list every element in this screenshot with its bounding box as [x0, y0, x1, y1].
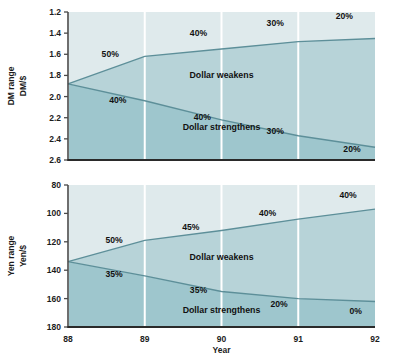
pct-lower-2-dm-chart: 30% — [267, 126, 285, 136]
x-tick-label-92: 92 — [370, 334, 380, 344]
y-tick-label-140: 140 — [47, 265, 61, 275]
pct-upper-1-dm-chart: 40% — [190, 28, 208, 38]
pct-lower-2-yen-chart: 20% — [270, 299, 288, 309]
pct-lower-3-yen-chart: 0% — [350, 306, 363, 316]
pct-upper-0-dm-chart: 50% — [102, 49, 120, 59]
pct-upper-3-dm-chart: 20% — [336, 11, 354, 21]
pct-lower-0-yen-chart: 35% — [105, 269, 123, 279]
pct-lower-1-yen-chart: 35% — [190, 285, 208, 295]
pct-lower-1-dm-chart: 40% — [194, 112, 212, 122]
x-tick-label-89: 89 — [140, 334, 150, 344]
region-label-strengthens-dm-chart: Dollar strengthens — [183, 122, 261, 132]
y-tick-label-2.0: 2.0 — [49, 92, 61, 102]
region-label-strengthens-yen-chart: Dollar strengthens — [183, 305, 261, 315]
y-axis-units-dm-chart: DM/$ — [18, 76, 28, 97]
y-tick-label-1.6: 1.6 — [49, 49, 61, 59]
x-tick-label-91: 91 — [294, 334, 304, 344]
x-tick-label-88: 88 — [63, 334, 73, 344]
y-axis-title-yen-chart: Yen range — [6, 235, 16, 276]
pct-upper-0-yen-chart: 50% — [105, 235, 123, 245]
region-label-weakens-yen-chart: Dollar weakens — [189, 252, 253, 262]
pct-upper-2-dm-chart: 30% — [267, 18, 285, 28]
y-tick-label-180: 180 — [47, 322, 61, 332]
y-tick-label-80: 80 — [52, 180, 62, 190]
pct-upper-2-yen-chart: 40% — [259, 208, 277, 218]
panel-yen-chart: 80100120140160180Yen rangeYen/$Dollar we… — [6, 180, 375, 332]
x-axis-group: 8889909192Year — [63, 334, 380, 355]
y-tick-label-100: 100 — [47, 208, 61, 218]
region-label-weakens-dm-chart: Dollar weakens — [189, 70, 253, 80]
y-tick-label-2.6: 2.6 — [49, 155, 61, 165]
y-axis-title-dm-chart: DM range — [6, 66, 16, 105]
pct-lower-3-dm-chart: 20% — [343, 144, 361, 154]
panel-dm-chart: 1.21.41.61.82.02.22.42.6DM rangeDM/$Doll… — [6, 7, 375, 165]
y-tick-label-1.4: 1.4 — [49, 28, 61, 38]
y-tick-label-2.2: 2.2 — [49, 113, 61, 123]
chart-canvas: 1.21.41.61.82.02.22.42.6DM rangeDM/$Doll… — [0, 0, 395, 355]
y-tick-label-120: 120 — [47, 237, 61, 247]
x-axis-title: Year — [213, 345, 232, 355]
y-tick-label-160: 160 — [47, 294, 61, 304]
y-tick-label-1.2: 1.2 — [49, 7, 61, 17]
pct-upper-3-yen-chart: 40% — [340, 190, 358, 200]
x-tick-label-90: 90 — [217, 334, 227, 344]
pct-upper-1-yen-chart: 45% — [182, 222, 200, 232]
y-tick-label-1.8: 1.8 — [49, 70, 61, 80]
y-axis-units-yen-chart: Yen/$ — [18, 245, 28, 267]
y-tick-label-2.4: 2.4 — [49, 134, 61, 144]
pct-lower-0-dm-chart: 40% — [109, 95, 127, 105]
dual-area-chart-figure: 1.21.41.61.82.02.22.42.6DM rangeDM/$Doll… — [0, 0, 395, 355]
